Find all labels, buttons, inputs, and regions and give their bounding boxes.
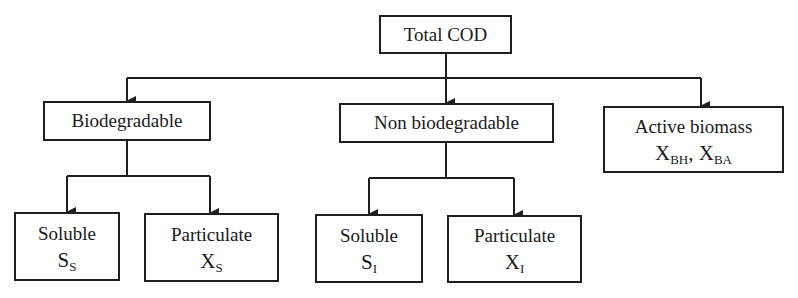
active-biomass-symbols: XBH, XBA [655,140,732,166]
symbol-subscript: I [373,261,377,276]
symbol-base: S [58,248,70,272]
soluble-inert-box: Soluble SI [315,214,423,283]
symbol-base: X [200,249,215,273]
symbol-base: X [505,250,520,274]
particulate-biodegradable-label: Particulate [171,222,252,248]
biodegradable-box: Biodegradable [43,101,211,141]
soluble-biodegradable-box: Soluble SS [14,212,120,281]
symbol-subscript: S [215,260,222,275]
soluble-biodegradable-label: Soluble [38,221,96,247]
particulate-biodegradable-symbol: XS [200,248,222,274]
symbol-separator: , [688,141,699,165]
autotrophic-biomass-symbol: X [699,141,714,165]
non-biodegradable-box: Non biodegradable [339,103,554,143]
particulate-inert-box: Particulate XI [447,215,582,283]
active-biomass-box: Active biomass XBH, XBA [603,106,784,173]
particulate-inert-symbol: XI [505,249,525,275]
soluble-inert-symbol: SI [361,249,377,275]
soluble-biodegradable-symbol: SS [58,247,77,273]
non-biodegradable-label: Non biodegradable [374,110,519,136]
cod-fractionation-diagram: Total COD Biodegradable Non biodegradabl… [0,0,798,298]
heterotrophic-biomass-symbol: X [655,141,670,165]
total-cod-label: Total COD [404,22,488,48]
total-cod-box: Total COD [379,15,512,54]
autotrophic-biomass-subscript: BA [714,152,732,167]
particulate-biodegradable-box: Particulate XS [144,213,279,282]
soluble-inert-label: Soluble [340,223,398,249]
symbol-subscript: S [69,259,76,274]
particulate-inert-label: Particulate [474,223,555,249]
symbol-subscript: I [520,261,524,276]
active-biomass-label: Active biomass [635,114,753,140]
heterotrophic-biomass-subscript: BH [670,152,688,167]
symbol-base: S [361,250,373,274]
biodegradable-label: Biodegradable [72,108,183,134]
